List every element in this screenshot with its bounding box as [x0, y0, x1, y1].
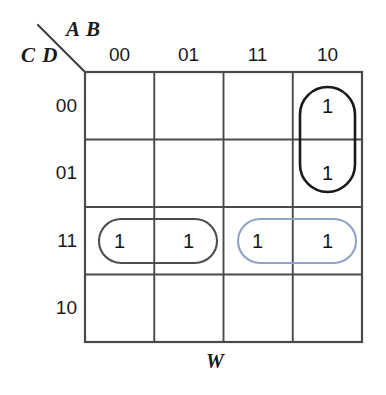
- cell-r0c0: [85, 72, 154, 140]
- header-label-ab: A B: [66, 17, 101, 42]
- cell-r2c2: 1: [223, 207, 292, 275]
- cell-r3c2: [223, 274, 292, 342]
- cell-r2c0: 1: [85, 207, 154, 275]
- column-header-1: 01: [154, 44, 223, 66]
- cell-r2c1: 1: [154, 207, 223, 275]
- column-header-2: 11: [223, 44, 292, 66]
- cell-r3c1: [154, 274, 223, 342]
- column-header-3: 10: [293, 44, 362, 66]
- cell-r2c3: 1: [293, 207, 362, 275]
- cell-r1c3: 1: [293, 139, 362, 207]
- cell-r0c1: [154, 72, 223, 140]
- cell-r1c2: [223, 139, 292, 207]
- row-header-0: 00: [25, 72, 77, 140]
- row-header-2: 11: [25, 207, 77, 275]
- header-label-cd: C D: [21, 43, 58, 68]
- row-header-3: 10: [25, 274, 77, 342]
- cell-r1c1: [154, 139, 223, 207]
- row-header-1: 01: [25, 139, 77, 207]
- column-header-0: 00: [85, 44, 154, 66]
- bottom-axis-variable: W: [206, 350, 224, 373]
- karnaugh-map-diagram: A B C D W 00 01 11 10 00 01 11 10 1 1 1 …: [0, 0, 386, 395]
- cell-r0c2: [223, 72, 292, 140]
- cell-r1c0: [85, 139, 154, 207]
- cell-r3c3: [293, 274, 362, 342]
- cell-r0c3: 1: [293, 72, 362, 140]
- cell-r3c0: [85, 274, 154, 342]
